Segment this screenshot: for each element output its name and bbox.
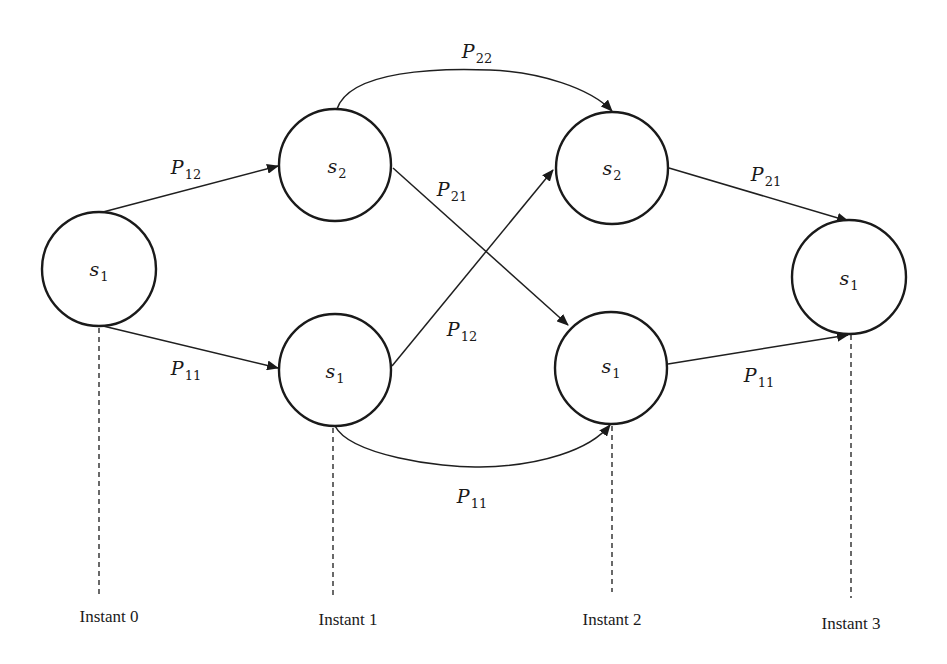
node-label-s1-instant0: s1: [89, 258, 108, 284]
prob-symbol: P: [462, 40, 475, 62]
prob-symbol: P: [447, 318, 460, 340]
state-subscript: 1: [612, 366, 620, 381]
edge-label-p12-instant0: P12: [171, 156, 201, 182]
edge-s1-to-s1-instant2-3: [668, 335, 848, 364]
state-symbol: s: [327, 155, 337, 177]
state-subscript: 1: [100, 269, 108, 284]
node-label-s2-instant1: s2: [327, 155, 346, 181]
prob-subscript: 11: [471, 496, 488, 511]
state-subscript: 1: [336, 371, 344, 386]
prob-subscript: 22: [476, 51, 493, 66]
prob-subscript: 11: [185, 368, 202, 383]
trellis-diagram: s1 s2 s1 s2 s1 s1 P12 P11 P22 P21 P12 P1…: [0, 0, 947, 664]
prob-subscript: 11: [758, 375, 775, 390]
state-subscript: 2: [613, 168, 621, 183]
prob-subscript: 21: [451, 189, 468, 204]
edge-s1-to-s1-instant1-2: [335, 425, 610, 467]
edge-label-p11-instant1: P11: [457, 485, 487, 511]
prob-symbol: P: [751, 163, 764, 185]
node-label-s2-instant2: s2: [602, 157, 621, 183]
edge-label-p11-instant2: P11: [744, 364, 774, 390]
node-label-s1-instant2: s1: [601, 355, 620, 381]
prob-symbol: P: [437, 178, 450, 200]
node-label-s1-instant1: s1: [325, 360, 344, 386]
prob-subscript: 12: [185, 167, 202, 182]
edge-label-p21-instant1: P21: [437, 178, 467, 204]
prob-subscript: 12: [461, 329, 478, 344]
state-symbol: s: [601, 355, 611, 377]
edge-s2-to-s2-instant1-2: [337, 69, 612, 111]
edge-label-p22-instant1: P22: [462, 40, 492, 66]
prob-subscript: 21: [765, 174, 782, 189]
instant-0-label: Instant 0: [79, 607, 138, 627]
prob-symbol: P: [171, 156, 184, 178]
edge-label-p12-instant1: P12: [447, 318, 477, 344]
instant-2-label: Instant 2: [582, 610, 641, 630]
prob-symbol: P: [744, 364, 757, 386]
instant-3-label: Instant 3: [821, 614, 880, 634]
state-subscript: 1: [850, 278, 858, 293]
prob-symbol: P: [457, 485, 470, 507]
state-symbol: s: [602, 157, 612, 179]
prob-symbol: P: [171, 357, 184, 379]
edge-label-p11-instant0: P11: [171, 357, 201, 383]
state-subscript: 2: [338, 166, 346, 181]
edge-s2-to-s1-instant1-2: [393, 168, 568, 325]
state-symbol: s: [839, 267, 849, 289]
instant-1-label: Instant 1: [318, 610, 377, 630]
edge-label-p21-instant2: P21: [751, 163, 781, 189]
node-label-s1-instant3: s1: [839, 267, 858, 293]
state-symbol: s: [325, 360, 335, 382]
state-symbol: s: [89, 258, 99, 280]
